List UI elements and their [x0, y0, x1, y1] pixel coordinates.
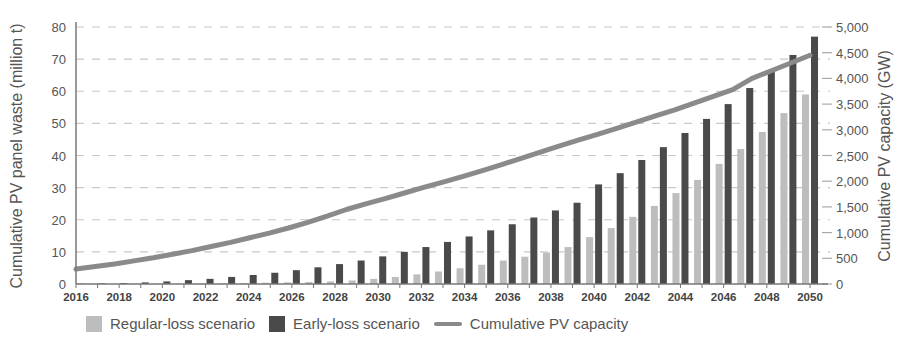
x-tick-label: 2022	[193, 291, 219, 303]
early-loss-bar	[379, 256, 386, 284]
regular-loss-bar	[392, 277, 399, 284]
early-loss-bar	[768, 72, 775, 284]
regular-loss-bar	[629, 217, 636, 284]
early-loss-bar	[228, 277, 235, 284]
early-loss-swatch-icon	[269, 316, 285, 332]
early-loss-bar	[250, 275, 257, 284]
regular-loss-bar	[759, 132, 766, 284]
regular-loss-bar	[565, 247, 572, 284]
left-tick-label: 0	[59, 277, 66, 292]
legend-label: Cumulative PV capacity	[470, 315, 628, 332]
early-loss-bar	[422, 247, 429, 284]
early-loss-bar	[509, 224, 516, 284]
regular-loss-bar	[586, 237, 593, 284]
right-tick-label: 3,500	[836, 97, 869, 112]
left-tick-label: 40	[52, 149, 66, 164]
regular-loss-bar	[521, 257, 528, 284]
axes: 0102030405060708005001,0001,5002,0002,50…	[52, 20, 869, 303]
legend-item-capacity: Cumulative PV capacity	[434, 315, 628, 332]
regular-loss-bar	[457, 268, 464, 284]
early-loss-bar	[401, 252, 408, 284]
x-tick-label: 2038	[538, 291, 564, 303]
x-tick-label: 2034	[452, 291, 478, 303]
regular-loss-bar	[651, 206, 658, 284]
x-tick-label: 2036	[495, 291, 521, 303]
early-loss-bar	[617, 173, 624, 284]
x-tick-label: 2016	[63, 291, 89, 303]
right-tick-label: 4,000	[836, 71, 869, 86]
early-loss-bar	[703, 119, 710, 284]
right-tick-label: 0	[836, 277, 843, 292]
early-loss-bar	[487, 230, 494, 284]
left-axis-title: Cumulative PV panel waste (million t)	[8, 24, 25, 289]
legend-item-regular-loss: Regular-loss scenario	[86, 315, 255, 332]
left-tick-label: 80	[52, 20, 66, 35]
x-tick-label: 2018	[106, 291, 132, 303]
early-loss-bar	[638, 160, 645, 284]
early-loss-bar	[336, 264, 343, 284]
regular-loss-bar	[802, 94, 809, 284]
regular-loss-bar	[500, 261, 507, 284]
x-tick-label: 2028	[322, 291, 348, 303]
legend-item-early-loss: Early-loss scenario	[269, 315, 420, 332]
right-tick-label: 1,000	[836, 226, 869, 241]
early-loss-bar	[444, 242, 451, 284]
legend: Regular-loss scenario Early-loss scenari…	[86, 315, 628, 332]
x-tick-label: 2044	[668, 291, 694, 303]
left-tick-label: 20	[52, 213, 66, 228]
legend-label: Regular-loss scenario	[110, 315, 255, 332]
x-tick-label: 2040	[581, 291, 607, 303]
x-tick-label: 2042	[624, 291, 650, 303]
right-tick-label: 2,500	[836, 149, 869, 164]
x-tick-label: 2030	[365, 291, 391, 303]
early-loss-bar	[293, 270, 300, 284]
x-tick-label: 2032	[409, 291, 435, 303]
regular-loss-swatch-icon	[86, 316, 102, 332]
regular-loss-bar	[608, 228, 615, 284]
right-tick-label: 500	[836, 251, 858, 266]
x-tick-label: 2048	[754, 291, 780, 303]
right-tick-label: 2,000	[836, 174, 869, 189]
regular-loss-bar	[543, 253, 550, 284]
early-loss-bar	[271, 273, 278, 284]
x-tick-label: 2046	[711, 291, 737, 303]
early-loss-bar	[358, 261, 365, 284]
early-loss-bar	[530, 218, 537, 284]
right-tick-label: 5,000	[836, 20, 869, 35]
left-tick-label: 30	[52, 181, 66, 196]
early-loss-bar	[746, 88, 753, 284]
bar-series	[77, 37, 818, 284]
left-tick-label: 70	[52, 52, 66, 67]
early-loss-bar	[725, 104, 732, 284]
x-tick-label: 2026	[279, 291, 305, 303]
capacity-line-swatch-icon	[434, 322, 462, 326]
pv-waste-chart: 0102030405060708005001,0001,5002,0002,50…	[0, 0, 921, 357]
legend-label: Early-loss scenario	[293, 315, 420, 332]
early-loss-bar	[207, 279, 214, 284]
early-loss-bar	[681, 133, 688, 284]
left-tick-label: 60	[52, 84, 66, 99]
regular-loss-bar	[478, 265, 485, 284]
early-loss-bar	[660, 147, 667, 284]
regular-loss-bar	[672, 193, 679, 284]
right-tick-label: 3,000	[836, 123, 869, 138]
regular-loss-bar	[435, 271, 442, 284]
left-tick-label: 50	[52, 116, 66, 131]
early-loss-bar	[811, 37, 818, 284]
regular-loss-bar	[716, 164, 723, 284]
early-loss-bar	[466, 236, 473, 284]
x-tick-label: 2050	[797, 291, 823, 303]
early-loss-bar	[574, 203, 581, 284]
right-axis-title: Cumulative PV capacity (GW)	[876, 50, 893, 262]
right-tick-label: 4,500	[836, 46, 869, 61]
regular-loss-bar	[780, 113, 787, 284]
x-tick-label: 2024	[236, 291, 262, 303]
left-tick-label: 10	[52, 245, 66, 260]
chart-plot-area: 0102030405060708005001,0001,5002,0002,50…	[0, 0, 921, 310]
regular-loss-bar	[370, 279, 377, 284]
regular-loss-bar	[694, 180, 701, 284]
regular-loss-bar	[737, 149, 744, 284]
early-loss-bar	[552, 210, 559, 284]
early-loss-bar	[595, 184, 602, 284]
x-tick-label: 2020	[150, 291, 176, 303]
